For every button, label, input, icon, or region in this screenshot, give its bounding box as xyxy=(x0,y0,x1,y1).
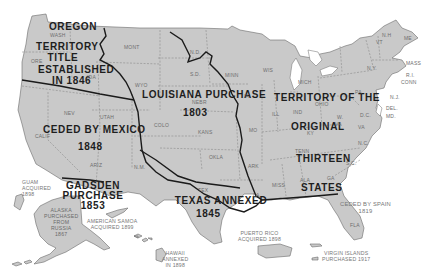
territory-label-alaska: ALASKA PURCHASED FROM RUSSIA 1867 xyxy=(44,208,78,238)
region-label-oregon-5: IN 1846 xyxy=(52,76,91,86)
region-label-oregon-4: ESTABLISHED xyxy=(38,65,108,75)
region-label-mexico: CEDED BY MEXICO xyxy=(43,125,146,135)
state-label-sc: S.C. xyxy=(346,161,357,166)
state-label-kans: KANS xyxy=(198,130,212,135)
state-label-pa: PA xyxy=(355,90,362,95)
state-label-okla: OKLA xyxy=(209,155,223,160)
aleutian-islands-2 xyxy=(24,260,32,264)
state-label-ky: KY xyxy=(307,131,314,136)
state-label-mass: MASS xyxy=(406,61,421,66)
state-label-tex: TEX xyxy=(198,188,208,193)
state-label-ind: IND xyxy=(293,110,302,115)
state-label-dc: D.C. xyxy=(360,113,371,118)
state-label-wva: W. xyxy=(337,115,343,120)
territory-label-virgin-islands: VIRGIN ISLANDS PURCHASED 1917 xyxy=(322,251,370,263)
state-label-ore: ORE xyxy=(31,59,42,64)
virgin-islands xyxy=(310,244,322,247)
state-label-vt: VT xyxy=(376,40,383,45)
region-label-oregon-3: TITLE xyxy=(38,53,88,63)
region-label-louisiana-year: 1803 xyxy=(183,108,208,118)
state-label-ida: IDA xyxy=(87,75,96,80)
region-label-texas-year: 1845 xyxy=(196,209,221,219)
state-label-colo: COLO xyxy=(154,123,169,128)
puerto-rico-island xyxy=(258,244,292,258)
region-label-original-3: THIRTEEN xyxy=(296,154,351,164)
state-label-sd: S.D. xyxy=(190,72,201,77)
territory-label-hawaii: HAWAII ANNEXED IN 1898 xyxy=(162,251,188,269)
region-label-oregon-2: TERRITORY xyxy=(36,42,96,52)
state-label-nh: N.H xyxy=(382,33,391,38)
state-label-ariz: ARIZ xyxy=(90,163,102,168)
state-label-ill: ILL xyxy=(272,112,280,117)
state-label-utah: UTAH xyxy=(100,115,114,120)
state-label-tenn: TENN xyxy=(295,149,309,154)
virgin-islands-2 xyxy=(312,257,318,260)
state-label-wva-2: VA xyxy=(335,122,342,127)
territory-label-samoa: AMERICAN SAMOA ACQUIRED 1899 xyxy=(87,219,137,231)
state-label-mo: MO xyxy=(249,128,257,133)
state-label-nm: N.M. xyxy=(134,165,145,170)
state-label-minn: MINN xyxy=(225,73,239,78)
region-label-original-4: STATES xyxy=(301,183,343,193)
samoa-island-3 xyxy=(142,238,148,242)
territory-label-puerto-rico: PUERTO RICO ACQUIRED 1898 xyxy=(238,231,281,243)
state-label-mich: MICH xyxy=(298,80,312,85)
state-label-ark: ARK xyxy=(248,164,259,169)
state-label-ny: N.Y. xyxy=(367,66,377,71)
territory-label-guam: GUAM ACQUIRED 1898 xyxy=(22,180,51,198)
state-label-miss: MISS xyxy=(272,183,285,188)
aleutian-islands xyxy=(12,262,22,266)
state-label-wis: WIS xyxy=(263,68,273,73)
state-label-me: ME xyxy=(404,36,412,41)
state-label-md: MD. xyxy=(386,114,396,119)
state-label-la: LA xyxy=(253,193,260,198)
state-label-ia: IA xyxy=(244,94,249,99)
state-label-ala: ALA xyxy=(300,178,310,183)
state-label-nc: N.C. xyxy=(358,141,369,146)
state-label-nd: N.D. xyxy=(190,50,201,55)
state-label-wyo: WYO xyxy=(135,83,148,88)
region-label-spain: CEDED BY SPAIN 1819 xyxy=(340,201,391,214)
state-label-nj: N.J. xyxy=(390,95,400,100)
hawaii-small-2 xyxy=(148,238,152,240)
state-label-conn: CONN xyxy=(401,80,417,85)
region-label-oregon: OREGON xyxy=(38,22,108,32)
hawaii-small-1 xyxy=(134,236,138,238)
state-label-va: VA xyxy=(358,125,365,130)
state-label-del: DEL. xyxy=(386,106,398,111)
state-label-ri: R.I. xyxy=(406,73,415,78)
state-label-ga: GA xyxy=(327,176,335,181)
state-label-ohio: OHIO xyxy=(315,102,329,107)
state-label-fla: FLA xyxy=(350,223,360,228)
state-label-nev: NEV xyxy=(64,111,75,116)
state-label-wash: WASH xyxy=(50,33,66,38)
region-label-mexico-year: 1848 xyxy=(78,142,103,152)
state-label-mont: MONT xyxy=(124,45,140,50)
state-label-nebr: NEBR xyxy=(192,100,207,105)
state-label-calif: CALIF xyxy=(35,134,50,139)
